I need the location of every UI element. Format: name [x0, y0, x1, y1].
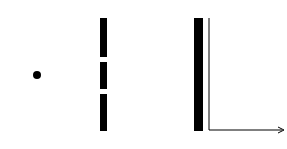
- intensity-graph: [209, 18, 284, 133]
- detection-screen: [194, 18, 203, 131]
- source-dot: [33, 71, 41, 79]
- double-slit-barrier: [100, 18, 107, 131]
- interference-diagram: [0, 0, 287, 149]
